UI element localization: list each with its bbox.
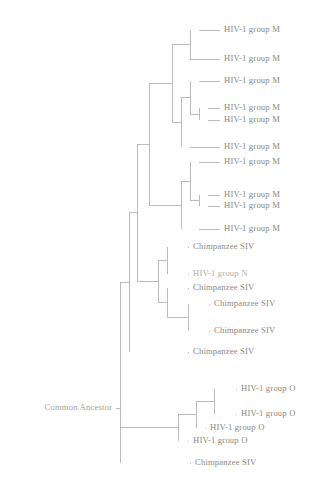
leaf-label-leaf-20: HIV-1 group O bbox=[193, 435, 248, 445]
leaf-label-leaf-19: HIV-1 group O bbox=[210, 422, 265, 432]
tree-leaf-labels: HIV-1 group MHIV-1 group MHIV-1 group MH… bbox=[193, 24, 296, 467]
leaf-label-leaf-2: HIV-1 group M bbox=[224, 53, 280, 63]
leaf-label-leaf-17: HIV-1 group O bbox=[241, 383, 296, 393]
leaf-label-leaf-7: HIV-1 group M bbox=[224, 156, 280, 166]
leaf-label-leaf-5: HIV-1 group M bbox=[224, 114, 280, 124]
tree-canvas: HIV-1 group MHIV-1 group MHIV-1 group MH… bbox=[0, 0, 329, 489]
phylogenetic-tree-figure: HIV-1 group MHIV-1 group MHIV-1 group MH… bbox=[0, 0, 329, 489]
leaf-label-leaf-9: HIV-1 group M bbox=[224, 200, 280, 210]
leaf-label-leaf-14: Chimpanzee SIV bbox=[214, 298, 276, 308]
leaf-label-leaf-12: HIV-1 group N bbox=[193, 268, 248, 278]
leaf-label-leaf-8: HIV-1 group M bbox=[224, 189, 280, 199]
leaf-label-leaf-4: HIV-1 group M bbox=[224, 102, 280, 112]
leaf-label-leaf-16: Chimpanzee SIV bbox=[193, 346, 255, 356]
leaf-label-leaf-3: HIV-1 group M bbox=[224, 75, 280, 85]
leaf-label-leaf-11: Chimpanzee SIV bbox=[193, 241, 255, 251]
leaf-label-leaf-13: Chimpanzee SIV bbox=[193, 282, 255, 292]
leaf-label-leaf-10: HIV-1 group M bbox=[224, 223, 280, 233]
common-ancestor-label: Common Ancestor bbox=[45, 402, 112, 412]
leaf-label-leaf-6: HIV-1 group M bbox=[224, 141, 280, 151]
leaf-label-leaf-18: HIV-1 group O bbox=[241, 408, 296, 418]
leaf-label-leaf-21: Chimpanzee SIV bbox=[195, 457, 257, 467]
leaf-label-leaf-1: HIV-1 group M bbox=[224, 24, 280, 34]
leaf-label-leaf-15: Chimpanzee SIV bbox=[214, 325, 276, 335]
root-node-group: Common Ancestor bbox=[45, 402, 120, 412]
